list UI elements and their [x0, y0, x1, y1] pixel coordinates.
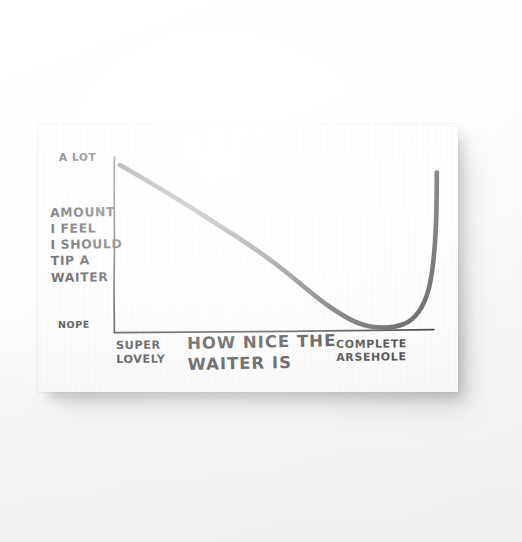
tip-curve: [120, 165, 437, 328]
x-axis-left-tick-label: SUPER LOVELY: [116, 339, 166, 367]
y-axis-top-tick-label: A LOT: [59, 151, 96, 164]
x-axis-title: HOW NICE THE WAITER IS: [187, 331, 337, 375]
photo-backdrop: A LOT NOPE AMOUNT I FEEL I SHOULD TIP A …: [0, 0, 522, 542]
x-axis-right-tick-label: COMPLETE ARSEHOLE: [336, 337, 407, 365]
paper-card: A LOT NOPE AMOUNT I FEEL I SHOULD TIP A …: [38, 124, 458, 392]
y-axis-title: AMOUNT I FEEL I SHOULD TIP A WAITER: [50, 204, 123, 286]
y-axis-bottom-tick-label: NOPE: [58, 319, 90, 330]
